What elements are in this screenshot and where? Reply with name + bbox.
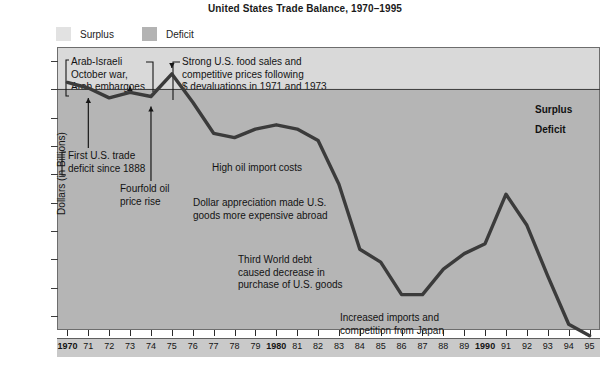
y-tick-mark <box>51 118 58 119</box>
annotation-line: $ devaluations in 1971 and 1973 <box>182 81 327 92</box>
annotation-line: October war, <box>71 69 128 80</box>
legend-swatch-surplus <box>56 27 71 41</box>
legend-label-deficit: Deficit <box>166 29 194 40</box>
x-tick-label: 93 <box>543 341 553 351</box>
chart-legend: Surplus Deficit <box>56 26 222 42</box>
annotation-strong-food-sales: Strong U.S. food sales and competitive p… <box>182 56 327 94</box>
x-tick-label: 78 <box>230 341 240 351</box>
x-tick-mark <box>193 330 194 336</box>
x-tick-mark <box>590 330 591 336</box>
y-tick-mark <box>51 288 58 289</box>
x-tick-mark <box>172 330 173 336</box>
x-tick-label: 88 <box>438 341 448 351</box>
x-tick-mark <box>130 330 131 336</box>
annotation-dollar-appreciation: Dollar appreciation made U.S. goods more… <box>193 197 328 222</box>
x-tick-mark <box>214 330 215 336</box>
y-tick-mark <box>51 231 58 232</box>
x-tick-label: 85 <box>376 341 386 351</box>
x-tick-label: 72 <box>104 341 114 351</box>
legend-label-surplus: Surplus <box>80 29 114 40</box>
annotation-line: deficit since 1888 <box>68 163 145 174</box>
x-tick-label: 1970 <box>57 341 77 351</box>
x-tick-mark <box>255 330 256 336</box>
x-tick-label: 1980 <box>266 341 286 351</box>
x-tick-mark <box>506 330 507 336</box>
annotation-line: Third World debt <box>238 254 312 265</box>
legend-swatch-deficit <box>142 27 157 41</box>
x-tick-mark <box>569 330 570 336</box>
annotation-high-oil-import-costs: High oil import costs <box>212 162 302 175</box>
annotation-line: purchase of U.S. goods <box>238 279 343 290</box>
x-tick-label: 89 <box>459 341 469 351</box>
x-tick-label: 92 <box>522 341 532 351</box>
x-tick-mark <box>527 330 528 336</box>
x-tick-label: 73 <box>125 341 135 351</box>
legend-item-surplus: Surplus <box>56 27 114 41</box>
annotation-line: price rise <box>120 196 161 207</box>
y-tick-mark <box>51 61 58 62</box>
x-tick-label: 81 <box>292 341 302 351</box>
x-tick-label: 75 <box>167 341 177 351</box>
x-tick-mark <box>109 330 110 336</box>
annotation-line: Increased imports and <box>340 312 439 323</box>
x-tick-label: 86 <box>397 341 407 351</box>
x-tick-label: 95 <box>585 341 595 351</box>
x-tick-mark <box>548 330 549 336</box>
zero-line-label-deficit: Deficit <box>535 124 566 135</box>
annotation-line: Dollar appreciation made U.S. <box>193 197 326 208</box>
x-tick-label: 94 <box>564 341 574 351</box>
annotation-line: First U.S. trade <box>68 150 135 161</box>
x-tick-label: 76 <box>188 341 198 351</box>
annotation-line: Fourfold oil <box>120 183 169 194</box>
y-tick-mark <box>51 146 58 147</box>
annotation-line: Arab embargoes <box>71 81 145 92</box>
annotation-arab-israeli: Arab-Israeli October war, Arab embargoes <box>71 56 145 94</box>
x-tick-label: 84 <box>355 341 365 351</box>
x-tick-mark <box>485 330 486 336</box>
x-tick-label: 79 <box>250 341 260 351</box>
annotation-line: goods more expensive abroad <box>193 210 328 221</box>
x-tick-label: 71 <box>83 341 93 351</box>
annotation-line: Arab-Israeli <box>71 56 122 67</box>
legend-item-deficit: Deficit <box>142 27 194 41</box>
x-tick-mark <box>464 330 465 336</box>
x-tick-label: 83 <box>334 341 344 351</box>
x-tick-label: 87 <box>417 341 427 351</box>
annotation-first-trade-deficit: First U.S. trade deficit since 1888 <box>68 150 145 175</box>
x-tick-mark <box>235 330 236 336</box>
x-tick-label: 1990 <box>475 341 495 351</box>
annotation-fourfold-oil-price: Fourfold oil price rise <box>120 183 169 208</box>
x-tick-mark <box>318 330 319 336</box>
x-tick-mark <box>151 330 152 336</box>
x-tick-mark <box>297 330 298 336</box>
annotation-line: Strong U.S. food sales and <box>182 56 302 67</box>
y-tick-mark <box>51 89 58 90</box>
annotation-line: competition from Japan <box>340 325 444 336</box>
x-tick-mark <box>276 330 277 336</box>
y-tick-mark <box>51 203 58 204</box>
trade-balance-figure: United States Trade Balance, 1970–1995 S… <box>0 0 610 380</box>
x-tick-label: 74 <box>146 341 156 351</box>
x-tick-mark <box>67 330 68 336</box>
x-tick-label: 82 <box>313 341 323 351</box>
y-tick-mark <box>51 174 58 175</box>
x-tick-label: 91 <box>501 341 511 351</box>
x-tick-label: 77 <box>209 341 219 351</box>
annotation-line: caused decrease in <box>238 267 325 278</box>
y-tick-mark <box>51 316 58 317</box>
chart-title: United States Trade Balance, 1970–1995 <box>0 3 610 14</box>
annotation-third-world-debt: Third World debt caused decrease in purc… <box>238 254 343 292</box>
annotation-line: competitive prices following <box>182 69 304 80</box>
x-tick-mark <box>88 330 89 336</box>
annotation-line: High oil import costs <box>212 162 302 173</box>
annotation-increased-imports-japan: Increased imports and competition from J… <box>340 312 444 337</box>
zero-line-label-surplus: Surplus <box>535 104 572 115</box>
x-axis-strip <box>57 338 600 357</box>
y-tick-mark <box>51 259 58 260</box>
